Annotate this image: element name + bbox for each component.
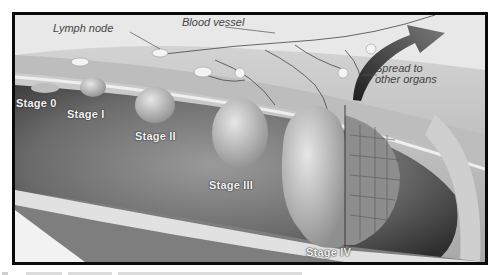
blood-vessel-label: Blood vessel xyxy=(182,16,244,28)
stage-1-label: Stage I xyxy=(67,108,104,120)
stage-3-label: Stage III xyxy=(209,179,253,191)
spread-label-line2: other organs xyxy=(375,74,437,85)
figure-caption-clipped xyxy=(2,268,302,275)
lymph-node-label: Lymph node xyxy=(53,22,113,34)
stage-4-label: Stage IV xyxy=(306,246,351,258)
spread-label: Spread to other organs xyxy=(375,63,437,85)
colon-illustration xyxy=(15,15,485,262)
stage-2-label: Stage II xyxy=(135,130,176,142)
illustration-frame: Lymph node Blood vessel Spread to other … xyxy=(12,12,488,265)
stage-0-label: Stage 0 xyxy=(16,97,57,109)
